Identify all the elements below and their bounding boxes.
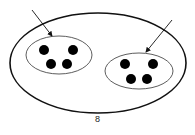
dot	[62, 59, 72, 69]
outer-set-ellipse	[10, 13, 186, 113]
left-arrow-icon	[32, 10, 52, 36]
dot	[68, 45, 78, 55]
dot	[142, 74, 152, 84]
dot	[148, 59, 158, 69]
left-group-ellipse	[26, 36, 92, 74]
dot	[120, 59, 130, 69]
dot	[46, 59, 56, 69]
right-arrow-icon	[146, 20, 172, 52]
dot	[39, 45, 49, 55]
dot	[126, 74, 136, 84]
right-group-ellipse	[105, 53, 173, 89]
diagram-caption: 8	[0, 114, 195, 124]
